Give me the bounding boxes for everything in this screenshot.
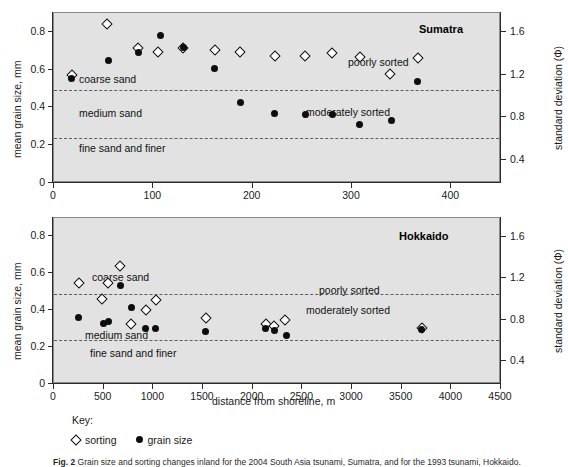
sorting-data-point	[151, 294, 162, 305]
grain-size-data-point	[105, 318, 112, 325]
sorting-data-point	[73, 277, 84, 288]
figure-caption-prefix: Fig. 2	[53, 458, 75, 467]
plot-area-sumatra: coarse sand medium sand fine sand and fi…	[53, 12, 500, 182]
x-axis-tick	[202, 384, 203, 389]
x-axis-tick	[152, 183, 153, 188]
sorting-data-point	[96, 293, 107, 304]
sorting-data-point	[300, 50, 311, 61]
x-axis-tick	[103, 384, 104, 389]
legend-key: Key: sorting grain size	[72, 415, 192, 445]
sorting-label-moderately-sorted: moderately sorted	[306, 305, 390, 316]
left-axis-tick	[48, 31, 53, 32]
grain-size-marker-icon	[136, 436, 143, 443]
grain-size-data-point	[262, 325, 269, 332]
sorting-data-point	[114, 260, 125, 271]
sorting-data-point	[412, 52, 423, 63]
figure-caption-text: Grain size and sorting changes inland fo…	[78, 458, 521, 467]
right-axis-tick-label: 1.2	[510, 69, 544, 80]
shared-x-axis-title: distance from shoreline, m	[212, 396, 335, 407]
zone-label-coarse-sand: coarse sand	[79, 74, 136, 85]
right-axis-tick-label: 0.4	[510, 154, 544, 165]
chart-panel-sumatra: coarse sand medium sand fine sand and fi…	[0, 0, 568, 205]
right-axis-tick	[501, 74, 506, 75]
x-axis-tick	[450, 384, 451, 389]
x-axis-tick	[500, 384, 501, 389]
right-axis-tick	[501, 236, 506, 237]
right-axis-tick	[501, 159, 506, 160]
right-axis-tick-label: 1.6	[510, 26, 544, 37]
x-axis-tick	[252, 183, 253, 188]
grain-size-data-point	[142, 325, 149, 332]
left-axis-line-hokkaido	[52, 217, 53, 384]
right-axis-tick-label: 0.8	[510, 314, 544, 325]
x-axis-tick-label: 400	[430, 190, 470, 201]
left-axis-tick	[48, 144, 53, 145]
x-axis-tick	[351, 183, 352, 188]
x-axis-tick	[252, 384, 253, 389]
grain-size-data-point	[117, 282, 124, 289]
x-axis-tick	[53, 183, 54, 188]
grain-size-data-point	[237, 99, 244, 106]
right-axis-tick-label: 1.6	[510, 231, 544, 242]
figure-caption: Fig. 2 Grain size and sorting changes in…	[53, 458, 568, 467]
grain-size-data-point	[271, 327, 278, 334]
legend-title: Key:	[72, 415, 192, 426]
figure-root: coarse sand medium sand fine sand and fi…	[0, 0, 568, 467]
zone-label-medium-sand: medium sand	[79, 108, 142, 119]
left-axis-tick	[48, 272, 53, 273]
left-axis-title-hokkaido: mean grain size, mm	[12, 263, 23, 360]
x-axis-tick	[450, 183, 451, 188]
right-axis-tick-label: 0.8	[510, 111, 544, 122]
grain-size-data-point	[271, 110, 278, 117]
x-axis-tick-label: 4000	[430, 391, 470, 402]
left-axis-tick	[48, 69, 53, 70]
left-axis-tick	[48, 309, 53, 310]
x-axis-tick-label: 0	[33, 391, 73, 402]
sorting-label-poorly-sorted: poorly sorted	[319, 285, 380, 296]
left-axis-line-sumatra	[52, 12, 53, 183]
right-axis-tick	[501, 31, 506, 32]
panel-title-sumatra: Sumatra	[419, 24, 463, 35]
grain-size-data-point	[302, 111, 309, 118]
x-axis-tick	[351, 384, 352, 389]
x-axis-tick-label: 1000	[132, 391, 172, 402]
zone-label-coarse-sand: coarse sand	[92, 272, 149, 283]
bottom-axis-line-hokkaido	[52, 383, 501, 384]
x-axis-tick	[53, 384, 54, 389]
right-axis-tick	[501, 360, 506, 361]
grain-size-data-point	[414, 78, 421, 85]
sorting-label-moderately-sorted: moderately sorted	[306, 107, 390, 118]
x-axis-tick	[152, 384, 153, 389]
x-axis-tick-label: 3000	[331, 391, 371, 402]
right-axis-line-hokkaido	[500, 217, 501, 384]
grain-size-data-point	[329, 111, 336, 118]
right-axis-line-sumatra	[500, 12, 501, 183]
grain-size-data-point	[283, 332, 290, 339]
zone-label-fine-sand: fine sand and finer	[79, 143, 165, 154]
sorting-marker-icon	[70, 434, 81, 445]
legend-entries: sorting grain size	[72, 435, 192, 446]
x-axis-tick-label: 0	[33, 190, 73, 201]
sorting-data-point	[153, 46, 164, 57]
x-axis-tick-label: 3500	[381, 391, 421, 402]
plot-area-hokkaido: coarse sand medium sand fine sand and fi…	[53, 217, 500, 383]
right-axis-tick	[501, 319, 506, 320]
grain-size-data-point	[418, 326, 425, 333]
grain-size-data-point	[388, 117, 395, 124]
grain-size-data-point	[68, 75, 75, 82]
panel-title-hokkaido: Hokkaido	[399, 231, 449, 242]
right-axis-title-sumatra: standard deviation (Φ)	[553, 46, 564, 150]
sorting-data-point	[200, 312, 211, 323]
sorting-data-point	[326, 47, 337, 58]
grain-size-data-point	[211, 65, 218, 72]
grain-size-data-point	[128, 304, 135, 311]
left-axis-tick-label: 0.8	[11, 230, 45, 241]
left-axis-tick	[48, 346, 53, 347]
left-axis-tick	[48, 235, 53, 236]
zone-label-medium-sand: medium sand	[85, 330, 148, 341]
sorting-data-point	[101, 18, 112, 29]
x-axis-tick-label: 4500	[480, 391, 520, 402]
x-axis-tick	[401, 384, 402, 389]
sorting-data-point	[280, 314, 291, 325]
zone-label-fine-sand: fine sand and finer	[90, 348, 176, 359]
